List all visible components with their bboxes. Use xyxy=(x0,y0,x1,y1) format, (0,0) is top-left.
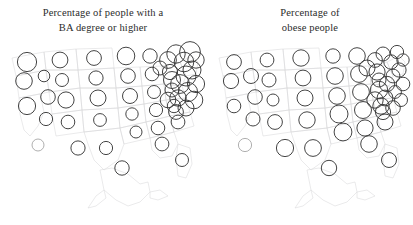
panel-obese: Percentage of obese people xyxy=(207,0,413,225)
map-obese xyxy=(207,40,413,225)
map-svg-obese xyxy=(207,40,413,225)
figure-root: Percentage of people with a BA degree or… xyxy=(0,0,413,225)
state-bubbles xyxy=(223,45,409,175)
map-ba-degree xyxy=(0,40,206,225)
map-svg-ba-degree xyxy=(0,40,206,225)
panel-title-ba-degree: Percentage of people with a BA degree or… xyxy=(0,6,206,35)
panel-ba-degree: Percentage of people with a BA degree or… xyxy=(0,0,206,225)
state-outlines xyxy=(219,48,405,208)
panel-title-obese: Percentage of obese people xyxy=(207,6,413,35)
